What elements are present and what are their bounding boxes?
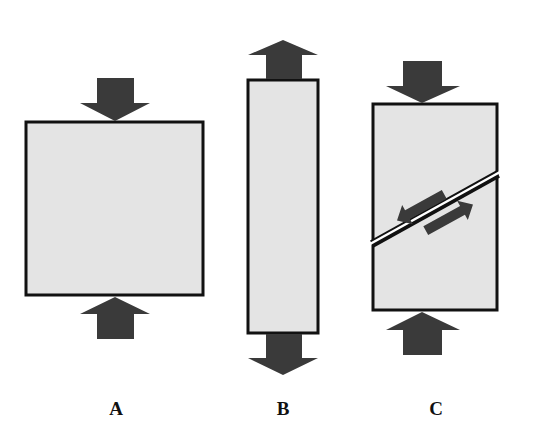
panel-label-a: A [109, 398, 123, 420]
stress-diagram [0, 0, 539, 435]
panel-label-c: C [429, 398, 443, 420]
panel-c-shear [370, 61, 500, 355]
arrow-down-icon [80, 78, 150, 121]
arrow-up-icon [248, 40, 318, 79]
block-a [26, 122, 203, 295]
arrow-down-icon [386, 61, 460, 103]
panel-a-compression [26, 78, 203, 339]
arrow-down-icon [248, 334, 318, 375]
panel-b-tension [248, 40, 318, 375]
arrow-up-icon [80, 297, 150, 339]
arrow-up-icon [386, 312, 460, 355]
panel-label-b: B [277, 398, 290, 420]
block-b [248, 80, 318, 333]
